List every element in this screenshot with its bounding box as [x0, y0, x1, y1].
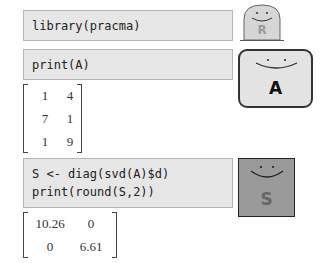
code-block-print-a: print(A) — [23, 49, 233, 80]
matrix-s-output: 10.260 06.61 — [23, 212, 117, 258]
r-character-icon: R — [240, 3, 284, 41]
a-letter: A — [240, 78, 311, 98]
s-letter: S — [239, 189, 294, 209]
left-bracket — [23, 212, 28, 258]
matrix-row: 10.260 — [23, 212, 117, 235]
matrix-a-output: 14 71 19 — [23, 84, 82, 153]
a-character-icon: A — [238, 49, 313, 108]
code-block-library: library(pracma) — [23, 10, 233, 41]
left-bracket — [23, 84, 28, 153]
matrix-row: 19 — [23, 130, 82, 153]
r-letter: R — [240, 23, 284, 37]
right-bracket — [77, 84, 82, 153]
right-bracket — [112, 212, 117, 258]
matrix-row: 71 — [23, 107, 82, 130]
code-block-svd: S <- diag(svd(A)$d) print(round(S,2)) — [23, 158, 233, 208]
matrix-row: 14 — [23, 84, 82, 107]
matrix-row: 06.61 — [23, 235, 117, 258]
s-character-icon: S — [238, 158, 295, 217]
